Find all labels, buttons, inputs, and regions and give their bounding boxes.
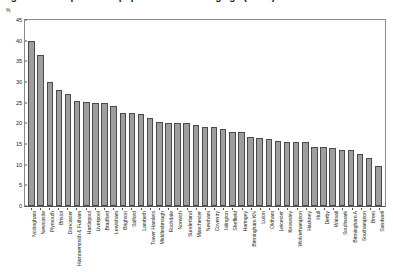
bar — [56, 90, 63, 206]
bar-slot — [200, 20, 209, 206]
bar — [110, 106, 117, 206]
x-axis-slot: Bristol — [54, 208, 63, 272]
bar — [28, 41, 35, 206]
bar-slot — [310, 20, 319, 206]
x-axis-tick-mark — [159, 208, 160, 210]
x-axis-slot: Middlesbrough — [154, 208, 163, 272]
bar-slot — [91, 20, 100, 206]
bar-slot — [155, 20, 164, 206]
bar — [247, 137, 254, 206]
x-axis-tick-mark — [67, 208, 68, 210]
bar — [293, 142, 300, 206]
x-axis-tick-mark — [214, 208, 215, 210]
y-axis-tick-label: 25 — [0, 100, 25, 106]
x-axis-slot: Doncaster — [63, 208, 72, 272]
bar — [183, 123, 190, 206]
x-axis-tick-mark — [187, 208, 188, 210]
bar — [220, 129, 227, 206]
chart-title: Figure 4.2: Proportion of population of … — [2, 0, 391, 2]
x-axis-slot: Newcastle — [35, 208, 44, 272]
bar-slot — [365, 20, 374, 206]
y-axis-tick-label: 0 — [0, 203, 25, 209]
x-axis-slot: Birmingham KN — [246, 208, 255, 272]
x-axis-tick-mark — [223, 208, 224, 210]
x-axis-tick-mark — [361, 208, 362, 210]
bar — [202, 127, 209, 206]
bar-slot — [237, 20, 246, 206]
x-axis-slot: Rochdale — [164, 208, 173, 272]
bar-slot — [109, 20, 118, 206]
bar — [229, 132, 236, 206]
x-axis-slot: Norwich — [173, 208, 182, 272]
bar — [256, 138, 263, 206]
bar — [174, 123, 181, 206]
y-axis-tick-label: 40 — [0, 38, 25, 44]
y-axis-unit-label: % — [6, 7, 10, 13]
x-axis-tick-mark — [333, 208, 334, 210]
x-axis-slot: Manchester — [191, 208, 200, 272]
bar-slot — [137, 20, 146, 206]
bar — [339, 150, 346, 206]
bar — [238, 132, 245, 206]
bar — [311, 147, 318, 206]
x-axis-slot: Lambeth — [136, 208, 145, 272]
x-axis-tick-mark — [352, 208, 353, 210]
bar — [275, 141, 282, 206]
bar — [101, 103, 108, 206]
bar-slot — [319, 20, 328, 206]
bar-slot — [292, 20, 301, 206]
x-axis-tick-mark — [122, 208, 123, 210]
y-axis-tick-label: 35 — [0, 58, 25, 64]
x-axis-tick-mark — [306, 208, 307, 210]
x-axis-tick-mark — [49, 208, 50, 210]
x-axis-slot: Sandwell — [375, 208, 384, 272]
bar — [348, 150, 355, 206]
bar — [129, 113, 136, 206]
y-axis-tick-label: 45 — [0, 17, 25, 23]
bar-slot — [346, 20, 355, 206]
bar-slot — [100, 20, 109, 206]
x-axis-tick-mark — [269, 208, 270, 210]
bar — [74, 101, 81, 206]
x-axis-slot: Hull — [310, 208, 319, 272]
bar — [37, 55, 44, 206]
x-axis-slot: Newham — [200, 208, 209, 272]
x-axis-tick-mark — [342, 208, 343, 210]
bar — [92, 103, 99, 206]
y-axis-tick-label: 5 — [0, 182, 25, 188]
bar-slot — [182, 20, 191, 206]
bar-slot — [264, 20, 273, 206]
x-axis-tick-mark — [31, 208, 32, 210]
x-axis-slot: Southwark — [338, 208, 347, 272]
bar-slot — [273, 20, 282, 206]
bar — [156, 122, 163, 206]
x-axis-slot: Luton — [255, 208, 264, 272]
chart-figure: Figure 4.2: Proportion of population of … — [0, 0, 393, 272]
bar-slot — [118, 20, 127, 206]
bar-slot — [164, 20, 173, 206]
x-axis-tick-mark — [242, 208, 243, 210]
x-axis-slot: Sheffield — [228, 208, 237, 272]
x-axis-slot: Knowsley — [283, 208, 292, 272]
x-axis-slot: Hackney — [301, 208, 310, 272]
y-axis-tick-label: 20 — [0, 120, 25, 126]
x-axis-tick-mark — [40, 208, 41, 210]
x-axis-slot: Hartlepool — [81, 208, 90, 272]
bar-slot — [146, 20, 155, 206]
plot-area: 051015202530354045 — [24, 19, 386, 207]
x-axis-slot: Plymouth — [44, 208, 53, 272]
bar-slot — [54, 20, 63, 206]
x-axis-tick-mark — [260, 208, 261, 210]
x-axis-slot: Leicester — [274, 208, 283, 272]
x-axis-slot: Lewisham — [109, 208, 118, 272]
x-axis-tick-mark — [76, 208, 77, 210]
x-axis-tick-mark — [205, 208, 206, 210]
x-axis-tick-label: Sandwell — [379, 211, 385, 232]
x-axis-slot: Sunderland — [182, 208, 191, 272]
bar-slot — [45, 20, 54, 206]
x-axis-slot: Nottingham — [26, 208, 35, 272]
y-axis-tick-label: 10 — [0, 162, 25, 168]
x-axis-tick-mark — [287, 208, 288, 210]
bar-slot — [328, 20, 337, 206]
bar-slot — [356, 20, 365, 206]
